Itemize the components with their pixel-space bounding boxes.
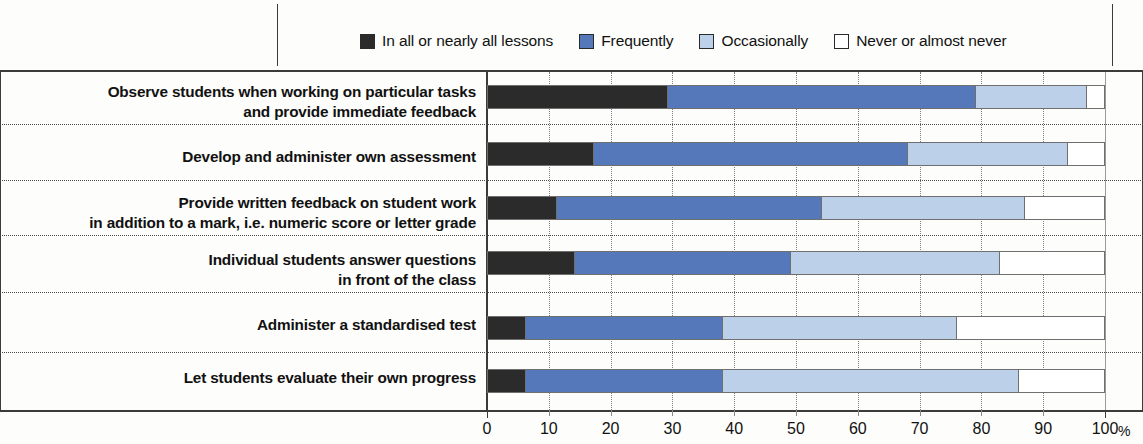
row-label-1: Develop and administer own assessment bbox=[8, 147, 476, 167]
row-label-line: Administer a standardised test bbox=[8, 315, 476, 335]
row-label-3: Individual students answer questionsin f… bbox=[8, 250, 476, 289]
y-axis-line bbox=[486, 72, 488, 410]
legend-divider-right bbox=[1112, 4, 1113, 66]
bar-row-5[interactable] bbox=[487, 369, 1105, 393]
x-tick-label-80: 80 bbox=[959, 420, 1003, 438]
bar-segment-frequently[interactable] bbox=[667, 86, 975, 108]
bar-segment-frequently[interactable] bbox=[525, 317, 722, 339]
row-label-2: Provide written feedback on student work… bbox=[8, 193, 476, 232]
bar-segment-never-or-almost-never[interactable] bbox=[1018, 370, 1104, 392]
bar-segment-occasionally[interactable] bbox=[821, 197, 1024, 219]
x-tick-label-40: 40 bbox=[712, 420, 756, 438]
legend-label-2: Occasionally bbox=[721, 32, 808, 50]
gridline-50 bbox=[796, 72, 797, 410]
bar-row-0[interactable] bbox=[487, 85, 1105, 109]
legend-item-1[interactable]: Frequently bbox=[579, 32, 673, 50]
bar-segment-occasionally[interactable] bbox=[907, 143, 1067, 165]
stacked-bar-chart: In all or nearly all lessons Frequently … bbox=[0, 0, 1143, 444]
bar-segment-never-or-almost-never[interactable] bbox=[1024, 197, 1104, 219]
x-tick-label-20: 20 bbox=[589, 420, 633, 438]
x-tick-60 bbox=[858, 410, 859, 416]
legend-item-0[interactable]: In all or nearly all lessons bbox=[360, 32, 553, 50]
row-label-0: Observe students when working on particu… bbox=[8, 82, 476, 121]
x-tick-70 bbox=[920, 410, 921, 416]
row-separator-4 bbox=[0, 352, 1143, 353]
legend-divider-left bbox=[277, 4, 278, 66]
bar-row-2[interactable] bbox=[487, 196, 1105, 220]
bar-segment-never-or-almost-never[interactable] bbox=[1086, 86, 1104, 108]
x-tick-label-10: 10 bbox=[527, 420, 571, 438]
bar-segment-in-all-or-nearly-all-lessons[interactable] bbox=[488, 143, 593, 165]
x-tick-40 bbox=[734, 410, 735, 416]
x-tick-50 bbox=[796, 410, 797, 416]
legend-item-3[interactable]: Never or almost never bbox=[834, 32, 1006, 50]
gridline-30 bbox=[672, 72, 673, 410]
bar-row-3[interactable] bbox=[487, 251, 1105, 275]
plot-frame-left bbox=[0, 70, 1, 412]
x-tick-100 bbox=[1105, 410, 1106, 418]
row-separator-3 bbox=[0, 292, 1143, 293]
x-tick-0 bbox=[487, 410, 488, 418]
bar-segment-frequently[interactable] bbox=[593, 143, 907, 165]
bar-segment-occasionally[interactable] bbox=[790, 252, 999, 274]
x-tick-label-90: 90 bbox=[1021, 420, 1065, 438]
bar-segment-in-all-or-nearly-all-lessons[interactable] bbox=[488, 252, 574, 274]
bar-segment-never-or-almost-never[interactable] bbox=[956, 317, 1104, 339]
plot-frame-top bbox=[0, 70, 1143, 72]
bar-row-1[interactable] bbox=[487, 142, 1105, 166]
row-label-line: Let students evaluate their own progress bbox=[8, 368, 476, 388]
bar-segment-in-all-or-nearly-all-lessons[interactable] bbox=[488, 86, 667, 108]
legend-items: In all or nearly all lessons Frequently … bbox=[360, 30, 1033, 52]
x-tick-label-70: 70 bbox=[898, 420, 942, 438]
row-label-line: and provide immediate feedback bbox=[8, 102, 476, 122]
legend-swatch-icon bbox=[579, 34, 594, 49]
bar-row-4[interactable] bbox=[487, 316, 1105, 340]
row-label-line: in front of the class bbox=[8, 270, 476, 290]
bar-segment-occasionally[interactable] bbox=[722, 370, 1018, 392]
x-axis-unit: % bbox=[1118, 423, 1130, 439]
row-label-line: Individual students answer questions bbox=[8, 250, 476, 270]
gridline-10 bbox=[549, 72, 550, 410]
bar-segment-in-all-or-nearly-all-lessons[interactable] bbox=[488, 197, 556, 219]
gridline-70 bbox=[920, 72, 921, 410]
x-tick-30 bbox=[672, 410, 673, 416]
bar-segment-frequently[interactable] bbox=[574, 252, 790, 274]
bar-segment-occasionally[interactable] bbox=[975, 86, 1086, 108]
row-label-line: Develop and administer own assessment bbox=[8, 147, 476, 167]
gridline-40 bbox=[734, 72, 735, 410]
x-tick-10 bbox=[549, 410, 550, 416]
axis-line-100 bbox=[1105, 72, 1106, 410]
gridline-60 bbox=[858, 72, 859, 410]
row-label-line: in addition to a mark, i.e. numeric scor… bbox=[8, 213, 476, 233]
bar-segment-never-or-almost-never[interactable] bbox=[999, 252, 1104, 274]
x-tick-label-30: 30 bbox=[650, 420, 694, 438]
x-tick-80 bbox=[981, 410, 982, 416]
row-label-line: Observe students when working on particu… bbox=[8, 82, 476, 102]
bar-segment-never-or-almost-never[interactable] bbox=[1067, 143, 1104, 165]
bar-segment-in-all-or-nearly-all-lessons[interactable] bbox=[488, 370, 525, 392]
chart-legend: In all or nearly all lessons Frequently … bbox=[0, 0, 1143, 70]
legend-label-3: Never or almost never bbox=[856, 32, 1006, 50]
legend-item-2[interactable]: Occasionally bbox=[699, 32, 808, 50]
bar-segment-in-all-or-nearly-all-lessons[interactable] bbox=[488, 317, 525, 339]
gridline-20 bbox=[611, 72, 612, 410]
x-tick-20 bbox=[611, 410, 612, 416]
x-tick-label-60: 60 bbox=[836, 420, 880, 438]
x-tick-label-0: 0 bbox=[465, 420, 509, 438]
row-separator-2 bbox=[0, 235, 1143, 236]
row-label-line: Provide written feedback on student work bbox=[8, 193, 476, 213]
row-label-5: Let students evaluate their own progress bbox=[8, 368, 476, 388]
legend-label-1: Frequently bbox=[601, 32, 673, 50]
legend-swatch-icon bbox=[699, 34, 714, 49]
bar-segment-frequently[interactable] bbox=[556, 197, 821, 219]
x-tick-90 bbox=[1043, 410, 1044, 416]
bar-segment-occasionally[interactable] bbox=[722, 317, 956, 339]
row-separator-0 bbox=[0, 124, 1143, 125]
legend-label-0: In all or nearly all lessons bbox=[382, 32, 553, 50]
row-label-4: Administer a standardised test bbox=[8, 315, 476, 335]
bar-segment-frequently[interactable] bbox=[525, 370, 722, 392]
plot-frame-bottom bbox=[0, 410, 1143, 412]
x-tick-label-50: 50 bbox=[774, 420, 818, 438]
row-separator-1 bbox=[0, 180, 1143, 181]
gridline-80 bbox=[981, 72, 982, 410]
